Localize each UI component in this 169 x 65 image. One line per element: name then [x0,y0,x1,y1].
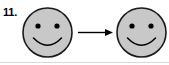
right-face-circle [117,8,166,57]
right-arrow [78,29,113,36]
right-smiley-face [117,8,166,57]
figure-drawing-canvas [0,0,169,65]
left-smiley-face [23,8,72,57]
arrow-head [105,29,113,36]
right-face-eye-right [148,23,153,28]
left-face-eye-right [54,23,59,28]
right-face-eye-left [129,23,134,28]
figure-container: 11. [0,0,169,65]
left-face-circle [23,8,72,57]
left-face-eye-left [35,23,40,28]
bottom-divider [0,62,169,63]
